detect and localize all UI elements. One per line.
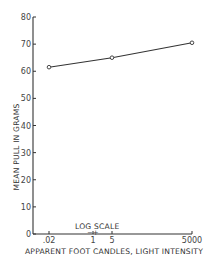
x-tick-label: 1 [90, 236, 95, 245]
x-axis-label: APPARENT FOOT CANDLES, LIGHT INTENSITY [25, 247, 203, 256]
data-series [47, 41, 194, 69]
y-axis: 01020304050607080 [21, 13, 36, 239]
x-axis: .02155000 [33, 231, 202, 245]
data-point-marker [190, 41, 194, 45]
log-scale-marks: −+ [87, 229, 99, 237]
y-tick-label: 0 [26, 230, 31, 239]
line-chart: 01020304050607080 .02155000 MEAN PULL IN… [0, 0, 210, 266]
x-tick-label: 5000 [182, 236, 202, 245]
data-point-marker [47, 65, 51, 69]
data-point-marker [110, 56, 114, 60]
y-axis-label: MEAN PULL IN GRAMS [12, 103, 21, 190]
y-tick-label: 40 [21, 122, 31, 131]
y-tick-label: 80 [21, 13, 31, 22]
y-tick-label: 20 [21, 176, 31, 185]
x-tick-label: .02 [43, 236, 56, 245]
series-line [49, 43, 192, 67]
y-tick-label: 30 [21, 149, 31, 158]
x-tick-label: 5 [109, 236, 114, 245]
y-tick-label: 50 [21, 94, 31, 103]
y-tick-label: 70 [21, 40, 31, 49]
y-tick-label: 60 [21, 67, 31, 76]
y-tick-label: 10 [21, 203, 31, 212]
